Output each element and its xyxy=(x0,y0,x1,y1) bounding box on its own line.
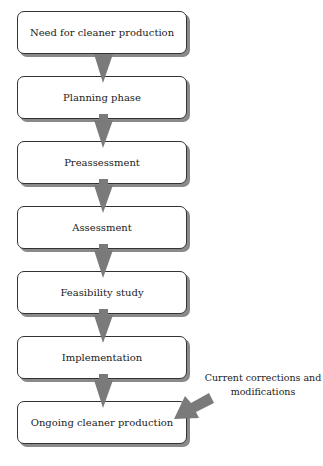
down-arrow-icon xyxy=(94,54,113,83)
down-arrow-icon xyxy=(94,179,113,213)
step-label: Need for cleaner production xyxy=(30,27,174,38)
diagonal-arrow-icon xyxy=(174,393,214,419)
step-label: Assessment xyxy=(72,222,132,233)
down-arrow-icon xyxy=(94,309,113,343)
down-arrow-icon xyxy=(94,244,113,278)
down-arrow-icon xyxy=(94,374,113,408)
flowchart: Need for cleaner production Planning pha… xyxy=(0,0,323,466)
step-label: Implementation xyxy=(62,352,142,363)
step-label: Preassessment xyxy=(64,157,140,168)
connector-arrows xyxy=(0,0,323,466)
down-arrow-icon xyxy=(94,114,113,148)
step-label: Planning phase xyxy=(63,92,141,103)
step-label: Feasibility study xyxy=(60,287,143,298)
step-label: Ongoing cleaner production xyxy=(31,417,174,428)
